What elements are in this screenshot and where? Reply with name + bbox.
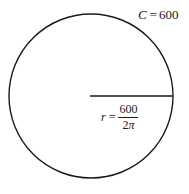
circumference-equals: = — [148, 7, 159, 22]
radius-equals: = — [106, 111, 119, 123]
radius-fraction-denominator: 2π — [121, 118, 135, 132]
radius-fraction: 600 2π — [118, 103, 138, 131]
radius-label: r= 600 2π — [101, 103, 138, 131]
geometry-figure: C=600 r= 600 2π — [0, 0, 189, 194]
circle-diagram — [0, 0, 189, 194]
circumference-label: C=600 — [138, 8, 179, 21]
radius-fraction-numerator: 600 — [118, 103, 138, 117]
pi-symbol: π — [128, 118, 134, 132]
circumference-value: 600 — [159, 7, 179, 22]
circumference-variable: C — [138, 7, 148, 22]
